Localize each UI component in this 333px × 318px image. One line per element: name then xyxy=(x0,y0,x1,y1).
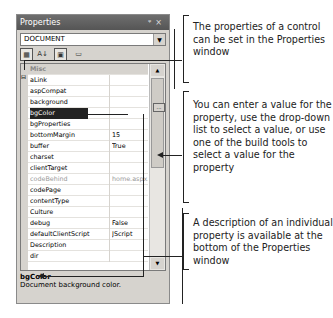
property-row[interactable]: debugFalse xyxy=(28,218,148,229)
property-row[interactable]: bgProperties xyxy=(28,119,148,130)
callout-bracket-1 xyxy=(183,15,189,83)
arrow-build-icon xyxy=(157,152,163,158)
scroll-up-icon[interactable]: ▲ xyxy=(151,65,164,76)
properties-window: Properties ᵠ× DOCUMENT ▼ ▦ A↓ ▣ ▭ ⊟ Misc… xyxy=(16,14,170,304)
categorized-icon: ▦ xyxy=(23,51,30,59)
property-row[interactable]: contentType xyxy=(28,196,148,207)
properties-icon: ▣ xyxy=(57,51,64,59)
description-text: Document background color. xyxy=(20,281,166,289)
callout-line-4 xyxy=(144,256,182,257)
callout-bracket-2 xyxy=(183,91,189,203)
object-selector[interactable]: DOCUMENT ▼ xyxy=(20,33,166,46)
close-icon[interactable]: × xyxy=(155,18,166,27)
vertical-scrollbar[interactable]: ▲ ▼ xyxy=(149,64,165,270)
callout-3: A description of an individual property … xyxy=(193,217,333,267)
arrow-selected-icon xyxy=(72,111,78,117)
callout-line-3b xyxy=(143,114,144,276)
arrow-desc-icon xyxy=(38,273,44,279)
callout-line-1 xyxy=(24,60,174,61)
callout-line-2 xyxy=(162,155,182,156)
property-row[interactable]: bufferTrue xyxy=(28,141,148,152)
property-row[interactable]: charset xyxy=(28,152,148,163)
property-row[interactable]: Description xyxy=(28,240,148,251)
property-pages-icon: ▭ xyxy=(75,50,82,58)
property-row[interactable]: codePage xyxy=(28,185,148,196)
window-title: Properties xyxy=(20,18,60,27)
category-row[interactable]: Misc xyxy=(28,64,148,75)
callout-2: You can enter a value for the property, … xyxy=(193,99,333,174)
alphabetical-icon: A↓ xyxy=(37,50,48,58)
property-row[interactable]: bottomMargin15 xyxy=(28,130,148,141)
scroll-down-icon[interactable]: ▼ xyxy=(151,258,164,269)
property-grid: ⊟ Misc aLink aspCompat background bgColo… xyxy=(20,63,166,271)
callout-1: The properties of a control can be set i… xyxy=(193,21,333,59)
chevron-down-icon[interactable]: ▼ xyxy=(153,34,165,45)
grid-gutter: ⊟ xyxy=(21,64,28,270)
property-row[interactable]: clientTarget xyxy=(28,163,148,174)
property-row[interactable]: defaultClientScriptJScript xyxy=(28,229,148,240)
property-row[interactable]: background xyxy=(28,97,148,108)
build-button[interactable]: ... xyxy=(153,103,165,112)
property-row[interactable]: Culture xyxy=(28,207,148,218)
callout-connector-1 xyxy=(174,29,175,89)
callout-bracket-3 xyxy=(183,213,189,270)
property-row-readonly[interactable]: codeBehindhome.aspx.vb xyxy=(28,174,148,185)
callout-line-3c xyxy=(43,276,144,277)
title-bar: Properties ᵠ× xyxy=(17,15,169,30)
callout-line-1b xyxy=(24,60,25,70)
callout-tick-1 xyxy=(174,60,182,61)
collapse-icon[interactable]: ⊟ xyxy=(21,73,26,80)
callout-line-3a xyxy=(78,114,128,115)
property-row[interactable]: aLink xyxy=(28,75,148,86)
object-selector-value: DOCUMENT xyxy=(24,35,65,43)
property-row[interactable]: aspCompat xyxy=(28,86,148,97)
property-row[interactable]: dir xyxy=(28,251,148,262)
